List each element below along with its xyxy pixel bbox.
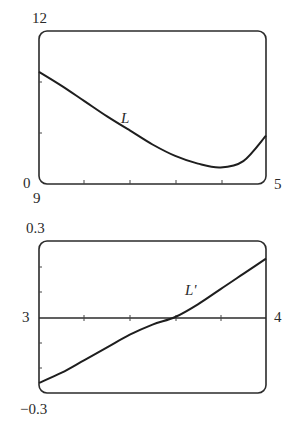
bottom-chart-curve-L-prime: [39, 259, 266, 383]
top-chart-frame: [39, 31, 266, 184]
top-chart-ticks: [39, 82, 222, 184]
charts-canvas: [0, 0, 291, 422]
top-chart-curve-L: [39, 72, 266, 168]
bottom-chart-frame: [39, 241, 266, 393]
